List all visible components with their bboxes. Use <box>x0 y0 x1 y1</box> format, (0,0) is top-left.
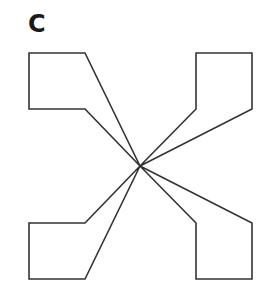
x-shaped-figure <box>0 0 273 288</box>
top-right-arm <box>140 53 252 166</box>
top-left-arm <box>29 53 140 166</box>
bottom-right-arm <box>140 166 252 279</box>
bottom-left-arm <box>29 166 140 279</box>
